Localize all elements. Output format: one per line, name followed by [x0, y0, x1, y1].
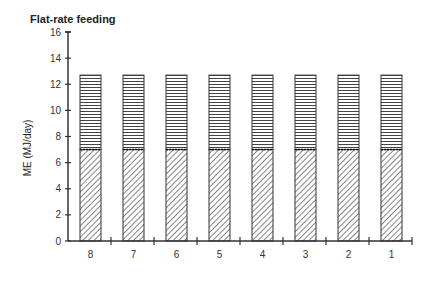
y-tick-label: 16 [50, 27, 62, 38]
y-tick-label: 12 [50, 79, 62, 90]
x-tick-label: 5 [217, 249, 223, 260]
bar-segment-lower [338, 150, 359, 241]
bar-segment-upper [295, 75, 316, 149]
bar-segment-lower [252, 150, 273, 241]
x-tick-label: 4 [260, 249, 266, 260]
bar-segment-upper [209, 75, 230, 149]
x-tick-label: 1 [389, 249, 395, 260]
y-tick-label: 8 [55, 131, 61, 142]
y-tick-label: 14 [50, 53, 62, 64]
stacked-bar-chart: 024681012141687654321 [0, 0, 432, 282]
x-tick-label: 6 [174, 249, 180, 260]
y-tick-label: 4 [55, 183, 61, 194]
bar-segment-upper [123, 75, 144, 149]
y-tick-label: 10 [50, 105, 62, 116]
bars-group [80, 75, 402, 241]
bar-segment-upper [381, 75, 402, 149]
x-tick-label: 2 [346, 249, 352, 260]
y-tick-label: 0 [55, 236, 61, 247]
bar-segment-lower [123, 150, 144, 241]
bar-segment-lower [80, 150, 101, 241]
bar-segment-lower [381, 150, 402, 241]
bar-segment-upper [252, 75, 273, 149]
bar-segment-upper [338, 75, 359, 149]
bar-segment-upper [80, 75, 101, 149]
bar-segment-upper [166, 75, 187, 149]
x-tick-label: 7 [131, 249, 137, 260]
x-tick-label: 3 [303, 249, 309, 260]
bar-segment-lower [295, 150, 316, 241]
y-tick-label: 6 [55, 157, 61, 168]
x-tick-label: 8 [88, 249, 94, 260]
bar-segment-lower [166, 150, 187, 241]
y-tick-label: 2 [55, 209, 61, 220]
bar-segment-lower [209, 150, 230, 241]
